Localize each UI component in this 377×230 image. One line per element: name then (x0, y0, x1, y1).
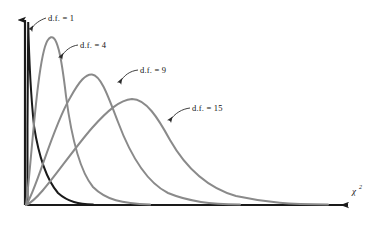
leader-line-df-4 (61, 45, 79, 58)
chart-canvas: d.f. = 1 d.f. = 4 d.f. = 9 d.f. = 15 χ 2 (0, 0, 377, 230)
leader-line-df-15 (170, 108, 191, 121)
curve-label-df-1: d.f. = 1 (48, 13, 74, 23)
x-axis-label-exponent: 2 (359, 184, 362, 190)
curve-df-15 (26, 99, 328, 205)
chi-square-distribution-chart: d.f. = 1 d.f. = 4 d.f. = 9 d.f. = 15 χ 2 (0, 0, 377, 230)
curve-df-4 (26, 37, 150, 205)
curve-df-9 (26, 74, 240, 205)
x-axis-label-chi: χ (351, 186, 357, 196)
axes-group (25, 20, 348, 205)
curve-label-df-15: d.f. = 15 (192, 103, 223, 113)
x-axis-label-group: χ 2 (351, 184, 362, 196)
curve-labels-group: d.f. = 1 d.f. = 4 d.f. = 9 d.f. = 15 (48, 13, 223, 113)
curve-label-df-9: d.f. = 9 (140, 65, 166, 75)
leader-line-df-9 (120, 70, 139, 83)
curve-label-df-4: d.f. = 4 (80, 40, 107, 50)
leader-line-df-1 (31, 18, 47, 30)
